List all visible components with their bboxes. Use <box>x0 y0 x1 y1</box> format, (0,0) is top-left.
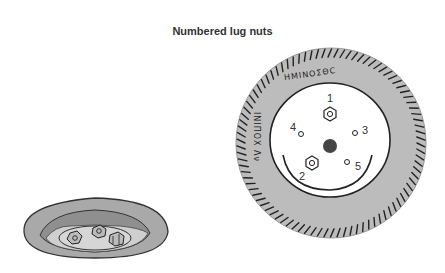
loose-lug-nut-3-icon <box>109 232 124 246</box>
center-hole-icon <box>323 139 337 153</box>
bowl-with-lug-nuts <box>24 198 168 258</box>
illustration: 1 2 3 4 5 ΗΜΙΝΟΣΘC ΙΝΙΠΟΧ Λν <box>0 0 445 273</box>
lug-label-1: 1 <box>327 92 333 104</box>
lug-label-3: 3 <box>362 124 368 136</box>
lug-label-4: 4 <box>290 121 296 133</box>
lug-label-5: 5 <box>355 160 361 172</box>
lug-hole-5-icon <box>345 160 350 165</box>
tire-text-left: ΙΝΙΠΟΧ Λν <box>252 112 261 162</box>
lug-hole-3-icon <box>353 131 358 136</box>
lug-nut-2-icon <box>306 156 318 170</box>
wheel-illustration: 1 2 3 4 5 ΗΜΙΝΟΣΘC ΙΝΙΠΟΧ Λν <box>236 48 426 238</box>
lug-nut-1-icon <box>324 107 336 121</box>
lug-label-2: 2 <box>299 170 305 182</box>
lug-hole-4-icon <box>299 132 304 137</box>
